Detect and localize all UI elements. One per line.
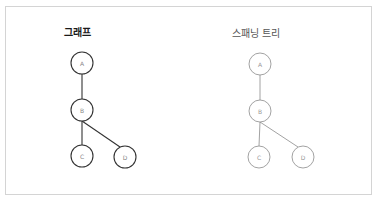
node-b-label: B: [80, 107, 84, 114]
tree-edge-b-c: [259, 122, 260, 146]
edge-b-d: [82, 121, 120, 147]
graphs-canvas: A B C D A B C D: [0, 0, 375, 201]
tree-node-d-label: D: [301, 154, 306, 161]
tree-node-c-label: C: [257, 154, 261, 161]
node-d-label: D: [123, 154, 128, 161]
tree-edge-b-d: [260, 122, 298, 147]
tree-node-b-label: B: [258, 108, 262, 115]
node-c-label: C: [80, 153, 84, 160]
